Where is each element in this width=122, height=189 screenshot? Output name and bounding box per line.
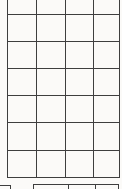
lower-grid-column-stub <box>33 184 34 189</box>
grid-column-rule <box>65 0 66 178</box>
grid-column-rule <box>93 0 94 178</box>
corner-box-right-rule <box>10 185 11 189</box>
lower-grid-column-stub <box>118 184 119 189</box>
grid-row-rule <box>7 177 120 178</box>
scanned-page <box>0 0 122 189</box>
lower-grid-column-stub <box>68 184 69 189</box>
grid-row-rule <box>7 14 120 15</box>
grid-row-rule <box>7 150 120 151</box>
lower-grid-top-rule <box>33 184 119 185</box>
corner-box-top-rule <box>0 185 10 186</box>
lower-grid-column-stub <box>95 184 96 189</box>
grid-column-rule <box>7 0 8 178</box>
grid-column-rule <box>119 0 120 178</box>
grid-row-rule <box>7 122 120 123</box>
grid-column-rule <box>36 0 37 178</box>
grid-row-rule <box>7 41 120 42</box>
grid-row-rule <box>7 95 120 96</box>
grid-row-rule <box>7 68 120 69</box>
